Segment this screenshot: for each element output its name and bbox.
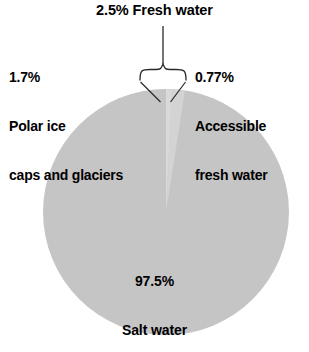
salt-water-text: Salt water xyxy=(0,322,309,338)
accessible-water-text-line-1: Accessible xyxy=(195,118,268,134)
polar-ice-percent: 1.7% xyxy=(9,69,123,85)
accessible-water-percent: 0.77% xyxy=(195,69,268,85)
salt-water-label: 97.5% Salt water xyxy=(0,240,309,352)
salt-water-percent: 97.5% xyxy=(0,273,309,289)
polar-ice-text-line-2: caps and glaciers xyxy=(9,167,123,183)
accessible-water-text-line-2: fresh water xyxy=(195,167,268,183)
polar-ice-label: 1.7% Polar ice caps and glaciers xyxy=(9,36,123,216)
pie-chart-figure: 2.5% Fresh water 1.7% Polar ice caps and… xyxy=(0,0,309,352)
accessible-fresh-water-label: 0.77% Accessible fresh water xyxy=(195,36,268,216)
fresh-water-brace xyxy=(140,64,186,80)
fresh-water-title: 2.5% Fresh water xyxy=(96,2,213,19)
polar-ice-text-line-1: Polar ice xyxy=(9,118,123,134)
